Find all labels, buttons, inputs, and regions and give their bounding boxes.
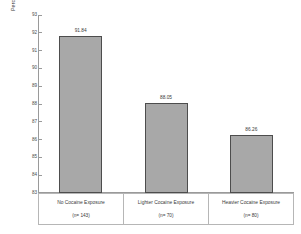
bar	[145, 103, 188, 193]
y-tick: 87	[18, 118, 42, 126]
y-tick: 91	[18, 47, 42, 55]
y-tick-mark	[39, 32, 42, 33]
y-tick-label: 92	[21, 29, 37, 37]
y-tick: 89	[18, 82, 42, 90]
bar-value-label: 88.05	[141, 95, 191, 101]
y-tick-label: 85	[21, 153, 37, 161]
y-tick-label: 88	[21, 100, 37, 108]
bar-value-label: 91.84	[56, 28, 106, 34]
y-tick: 86	[18, 136, 42, 144]
y-tick: 85	[18, 153, 42, 161]
y-tick: 92	[18, 29, 42, 37]
y-tick-mark	[39, 121, 42, 122]
category-cell: Heavier Cocaine Exposure(n= 80)	[208, 194, 293, 224]
category-label-table: No Cocaine Exposure(n= 143)Lighter Cocai…	[38, 193, 294, 225]
y-tick-label: 83	[21, 189, 37, 197]
y-tick-mark	[39, 104, 42, 105]
bar-value-label: 86.26	[226, 127, 276, 133]
y-tick-label: 86	[21, 136, 37, 144]
plot-area: 9392919089888786858483 91.8488.0586.26	[38, 15, 294, 193]
y-tick-label: 84	[21, 171, 37, 179]
category-cell: Lighter Cocaine Exposure(n= 70)	[123, 194, 208, 224]
y-tick-label: 91	[21, 47, 37, 55]
y-tick-label: 87	[21, 118, 37, 126]
y-tick: 93	[18, 11, 42, 19]
y-tick-mark	[39, 157, 42, 158]
category-name: No Cocaine Exposure	[57, 199, 105, 206]
y-tick-mark	[39, 86, 42, 87]
bar	[59, 36, 102, 193]
bar-chart: Perceptual Reasoning IQ 9392919089888786…	[0, 0, 301, 234]
category-name: Heavier Cocaine Exposure	[222, 199, 280, 206]
category-sample-size: (n= 80)	[244, 212, 259, 219]
y-tick-label: 89	[21, 82, 37, 90]
y-tick: 88	[18, 100, 42, 108]
y-tick: 84	[18, 171, 42, 179]
bar	[230, 135, 273, 193]
y-tick-mark	[39, 139, 42, 140]
category-sample-size: (n= 143)	[72, 212, 90, 219]
y-tick-mark	[39, 15, 42, 16]
category-name: Lighter Cocaine Exposure	[138, 199, 194, 206]
y-tick-mark	[39, 50, 42, 51]
y-tick-mark	[39, 68, 42, 69]
y-tick-label: 90	[21, 64, 37, 72]
category-cell: No Cocaine Exposure(n= 143)	[39, 194, 123, 224]
category-sample-size: (n= 70)	[159, 212, 174, 219]
y-tick: 90	[18, 64, 42, 72]
y-tick-label: 93	[21, 11, 37, 19]
y-axis-title: Perceptual Reasoning IQ	[8, 0, 18, 46]
y-tick-mark	[39, 175, 42, 176]
